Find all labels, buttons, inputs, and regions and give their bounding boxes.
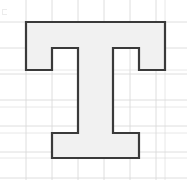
figure-canvas <box>0 0 187 180</box>
letter-t-polygon <box>26 22 165 158</box>
grid-diagram <box>0 0 187 180</box>
corner-mark-icon <box>2 9 7 15</box>
